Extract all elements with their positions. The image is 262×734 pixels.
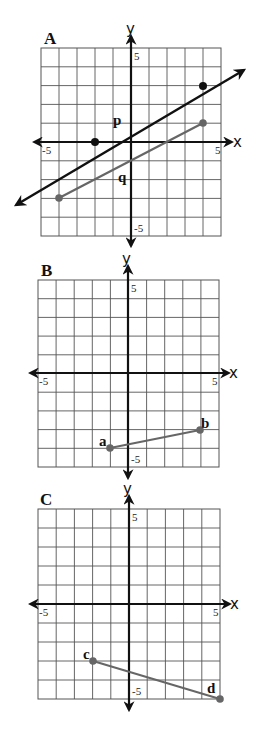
point-p2 bbox=[199, 82, 207, 90]
line-p-label: p bbox=[113, 112, 121, 128]
point-c-label: c bbox=[83, 646, 90, 662]
graphs-figure: A y x 5 -5 -5 5 p q B y x 5 -5 -5 5 a b bbox=[0, 0, 262, 734]
point-a bbox=[106, 444, 114, 452]
tick-x-max-b: 5 bbox=[212, 375, 218, 387]
tick-y-max-a: 5 bbox=[134, 50, 140, 62]
x-axis-label-a: x bbox=[233, 133, 242, 151]
endpoint-q2 bbox=[199, 119, 207, 127]
panel-label-c: C bbox=[40, 490, 52, 509]
endpoint-q1 bbox=[55, 194, 63, 202]
point-d bbox=[216, 695, 224, 703]
panel-label-a: A bbox=[44, 29, 57, 48]
y-axis-label-b: y bbox=[122, 250, 131, 268]
graph-a: A y x 5 -5 -5 5 p q bbox=[16, 20, 244, 246]
point-b-label: b bbox=[201, 415, 209, 431]
graph-b: B y x 5 -5 -5 5 a b bbox=[30, 250, 238, 478]
graph-c: C y x 5 -5 -5 5 c d bbox=[30, 480, 239, 710]
point-d-label: d bbox=[207, 680, 216, 696]
tick-x-max-c: 5 bbox=[213, 606, 219, 618]
tick-x-max-a: 5 bbox=[215, 144, 221, 156]
tick-y-max-c: 5 bbox=[132, 511, 138, 523]
tick-x-min-c: -5 bbox=[39, 606, 49, 618]
tick-x-min-a: -5 bbox=[42, 144, 52, 156]
tick-y-min-c: -5 bbox=[132, 685, 142, 697]
segment-ab bbox=[110, 430, 200, 448]
y-axis-label-c: y bbox=[123, 480, 132, 498]
x-axis-label-c: x bbox=[230, 595, 239, 613]
tick-y-min-b: -5 bbox=[131, 453, 141, 465]
tick-y-min-a: -5 bbox=[134, 222, 144, 234]
panel-label-b: B bbox=[41, 261, 52, 280]
tick-y-max-b: 5 bbox=[131, 282, 137, 294]
point-a-label: a bbox=[99, 433, 107, 449]
point-c bbox=[89, 657, 97, 665]
segment-q-label: q bbox=[118, 169, 127, 185]
point-p1 bbox=[91, 138, 99, 146]
x-axis-label-b: x bbox=[229, 364, 238, 382]
tick-x-min-b: -5 bbox=[39, 375, 49, 387]
y-axis-label-a: y bbox=[126, 20, 135, 38]
